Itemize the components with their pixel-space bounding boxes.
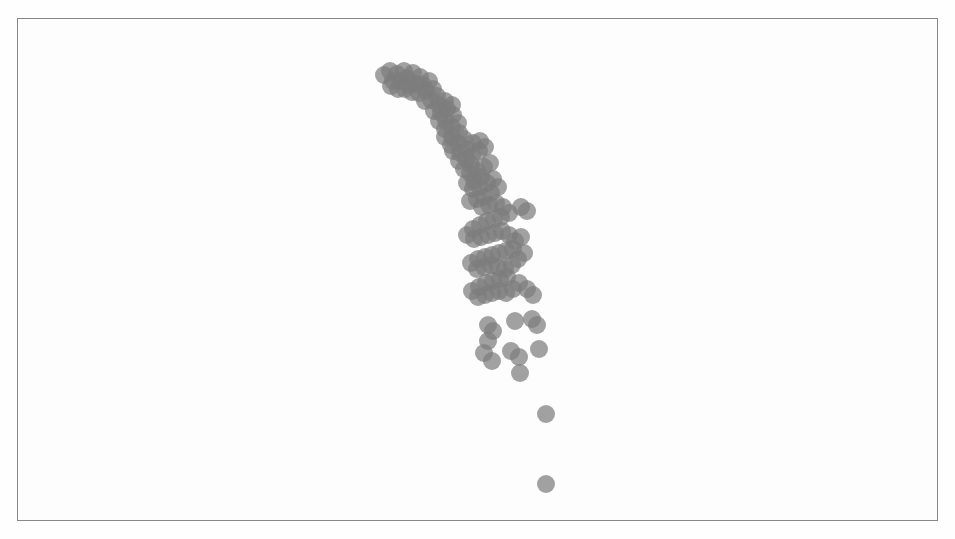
scatter-plot-canvas xyxy=(18,19,937,520)
scatter-point xyxy=(510,348,528,366)
plot-area xyxy=(18,19,937,520)
scatter-point xyxy=(528,316,546,334)
scatter-point xyxy=(382,77,400,95)
scatter-point xyxy=(537,475,555,493)
scatter-point xyxy=(515,244,533,262)
scatter-point xyxy=(511,364,529,382)
scatter-point xyxy=(530,340,548,358)
scatter-points-group xyxy=(375,62,555,493)
scatter-point xyxy=(524,286,542,304)
scatter-point xyxy=(537,405,555,423)
scatter-point xyxy=(506,312,524,330)
scatter-point xyxy=(464,134,482,152)
scatter-point xyxy=(518,202,536,220)
plot-frame-border xyxy=(17,18,938,521)
scatter-point xyxy=(483,352,501,370)
figure-root xyxy=(0,0,955,539)
